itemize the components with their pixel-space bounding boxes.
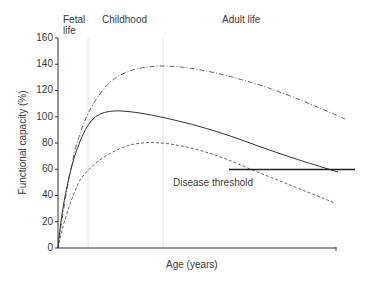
phase-label-childhood: Childhood — [102, 14, 147, 25]
y-axis-title: Functional capacity (%) — [17, 88, 28, 198]
y-tick-100: 100 — [29, 112, 53, 122]
y-tick-40: 40 — [29, 190, 53, 200]
y-tick-20: 20 — [29, 217, 53, 227]
y-tick-0: 0 — [29, 243, 53, 253]
phase-label-fetal: Fetal life — [63, 14, 85, 36]
phase-label-fetal-line1: Fetal — [63, 14, 85, 25]
phase-label-fetal-line2: life — [63, 25, 85, 36]
life-course-chart — [0, 0, 369, 282]
y-tick-120: 120 — [29, 85, 53, 95]
y-tick-80: 80 — [29, 138, 53, 148]
disease-threshold-label: Disease threshold — [173, 177, 253, 188]
x-axis-title: Age (years) — [166, 259, 218, 270]
y-tick-160: 160 — [29, 33, 53, 43]
curve-high-dashdot — [58, 66, 345, 248]
phase-label-adult: Adult life — [222, 14, 260, 25]
y-tick-140: 140 — [29, 59, 53, 69]
y-tick-60: 60 — [29, 164, 53, 174]
